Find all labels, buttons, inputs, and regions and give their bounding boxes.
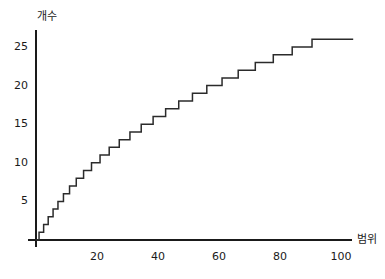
x-tick-label: 20 xyxy=(90,250,104,263)
y-tick-labels: 510152025 xyxy=(14,40,28,207)
y-tick-label: 25 xyxy=(14,40,28,53)
y-axis-title: 개수 xyxy=(37,10,57,23)
y-tick-label: 20 xyxy=(14,79,28,92)
step-chart: 510152025 20406080100 개수 범위 xyxy=(0,0,385,279)
x-tick-label: 40 xyxy=(151,250,165,263)
y-tick-label: 10 xyxy=(14,156,28,169)
y-tick-label: 5 xyxy=(21,194,28,207)
x-tick-labels: 20406080100 xyxy=(90,250,352,263)
x-tick-label: 60 xyxy=(212,250,226,263)
x-tick-label: 80 xyxy=(273,250,287,263)
axes-group xyxy=(28,30,352,247)
y-tick-label: 15 xyxy=(14,117,28,130)
cumulative-step-line xyxy=(36,39,353,240)
chart-figure: 510152025 20406080100 개수 범위 xyxy=(0,0,385,279)
x-axis-title: 범위 xyxy=(357,233,377,246)
x-tick-label: 100 xyxy=(331,250,352,263)
